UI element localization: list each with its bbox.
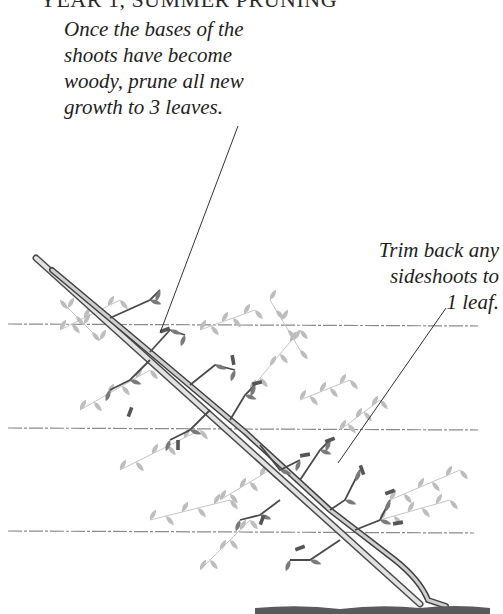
training-wire-top (8, 324, 478, 326)
vine-stem (52, 270, 446, 606)
vine-illustration (0, 0, 503, 614)
support-cane (36, 258, 420, 604)
ground (255, 606, 490, 614)
leader-line-prune (160, 126, 238, 333)
training-wire-bottom (8, 531, 474, 533)
